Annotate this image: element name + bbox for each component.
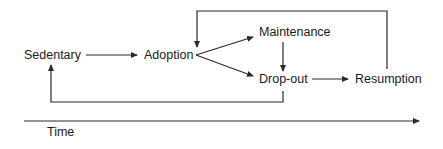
node-adoption: Adoption [144,48,193,62]
time-axis-label: Time [47,125,74,139]
arrow-resumption-to-adoption [197,11,387,69]
behavior-change-diagram: Sedentary Adoption Maintenance Drop-out … [0,0,443,149]
node-resumption: Resumption [355,72,422,86]
node-dropout: Drop-out [259,72,308,86]
arrow-adoption-to-maintenance [196,37,253,55]
node-sedentary: Sedentary [24,48,81,62]
node-maintenance: Maintenance [259,25,331,39]
arrow-adoption-to-dropout [196,55,253,76]
arrow-dropout-to-sedentary [51,65,283,102]
